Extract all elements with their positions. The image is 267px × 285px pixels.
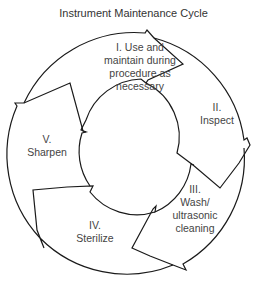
step-3-line-3: ultrasonic [165, 209, 225, 222]
step-2-line-1: II. [192, 101, 242, 114]
step-4-line-2: Sterilize [68, 232, 122, 245]
step-4-line-1: IV. [68, 219, 122, 232]
step-5-line-2: Sharpen [22, 146, 72, 159]
step-label-use-maintain: I. Use and maintain during procedure as … [98, 41, 182, 93]
step-1-line-4: necessary [98, 80, 182, 93]
step-5-line-1: V. [22, 133, 72, 146]
step-1-line-1: I. Use and [98, 41, 182, 54]
step-1-line-3: procedure as [98, 67, 182, 80]
step-1-line-2: maintain during [98, 54, 182, 67]
step-3-line-4: cleaning [165, 222, 225, 235]
step-label-sharpen: V. Sharpen [22, 133, 72, 159]
step-2-line-2: Inspect [192, 114, 242, 127]
step-3-line-2: Wash/ [165, 196, 225, 209]
step-label-sterilize: IV. Sterilize [68, 219, 122, 245]
arrow-segment-sharpen [7, 83, 90, 238]
step-3-line-1: III. [165, 183, 225, 196]
step-label-wash: III. Wash/ ultrasonic cleaning [165, 183, 225, 235]
step-label-inspect: II. Inspect [192, 101, 242, 127]
